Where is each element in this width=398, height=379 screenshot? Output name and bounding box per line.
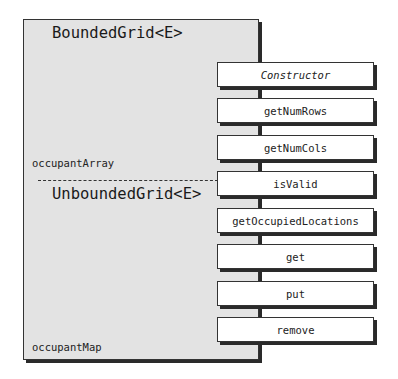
method-remove[interactable]: remove	[217, 317, 374, 342]
unbounded-grid-title: UnboundedGrid<E>	[52, 185, 201, 203]
method-get[interactable]: get	[217, 244, 374, 269]
method-constructor[interactable]: Constructor	[217, 62, 374, 87]
occupant-map-field: occupantMap	[32, 341, 102, 353]
class-divider-dashed-line	[38, 180, 218, 181]
method-get-num-rows[interactable]: getNumRows	[217, 98, 374, 123]
bounded-grid-title: BoundedGrid<E>	[52, 24, 183, 42]
method-put[interactable]: put	[217, 281, 374, 306]
method-get-num-cols[interactable]: getNumCols	[217, 135, 374, 160]
occupant-array-field: occupantArray	[32, 157, 114, 169]
method-get-occupied-locations[interactable]: getOccupiedLocations	[217, 208, 374, 233]
method-is-valid[interactable]: isValid	[217, 171, 374, 196]
